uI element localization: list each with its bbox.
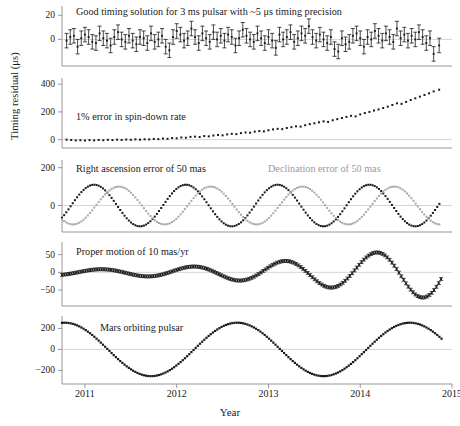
- y-tick-label: 50: [0, 250, 55, 260]
- panel-3-title-declination: Declination error of 50 mas: [268, 163, 381, 174]
- y-tick-label: 0: [0, 344, 55, 354]
- y-tick-label: 0: [0, 201, 55, 211]
- panel-3-title-right-ascension: Right ascension error of 50 mas: [76, 163, 206, 174]
- x-tick-label: 2011: [75, 388, 95, 399]
- y-tick-label: −200: [0, 365, 55, 375]
- x-tick-label: 2014: [350, 388, 370, 399]
- y-tick-label: 400: [0, 79, 55, 89]
- panel-2-title: 1% error in spin-down rate: [76, 111, 186, 122]
- panel-4-title: Proper motion of 10 mas/yr: [76, 246, 189, 257]
- plot-canvas: [0, 0, 460, 426]
- pulsar-timing-residual-figure: Timing residual (μs) Year 02002004000200…: [0, 0, 460, 426]
- y-tick-label: −50: [0, 285, 55, 295]
- x-axis-label: Year: [0, 406, 460, 418]
- y-tick-label: 0: [0, 135, 55, 145]
- x-tick-label: 2013: [258, 388, 278, 399]
- y-tick-label: 200: [0, 107, 55, 117]
- y-tick-label: 20: [0, 10, 55, 20]
- panel-1-title: Good timing solution for 3 ms pulsar wit…: [76, 6, 342, 17]
- x-tick-label: 2015: [442, 388, 460, 399]
- y-tick-label: 0: [0, 267, 55, 277]
- y-tick-label: 0: [0, 34, 55, 44]
- panel-5-title: Mars orbiting pulsar: [100, 322, 183, 333]
- y-tick-label: 200: [0, 323, 55, 333]
- x-tick-label: 2012: [167, 388, 187, 399]
- y-tick-label: 200: [0, 163, 55, 173]
